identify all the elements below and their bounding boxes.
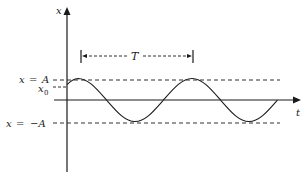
initial-position-sub: 0: [44, 89, 48, 97]
amplitude-positive-eq: =: [29, 74, 37, 85]
amplitude-positive-line: x = A: [19, 74, 280, 85]
amplitude-negative-eq: =: [16, 118, 24, 129]
amplitude-positive-var: x: [19, 74, 25, 85]
shm-diagram: x t x = A x 0 x = −A T: [0, 0, 308, 178]
t-axis-arrow-icon: [293, 97, 301, 104]
period-marker: T: [81, 50, 193, 63]
t-axis-label: t: [296, 107, 301, 118]
x-axis-arrow-icon: [64, 7, 71, 15]
x-axis-label: x: [56, 5, 62, 16]
initial-position-line: x 0: [38, 83, 67, 97]
period-left-arrow-icon: [82, 54, 87, 58]
period-right-arrow-icon: [187, 54, 192, 58]
amplitude-negative-val: −A: [30, 118, 46, 129]
amplitude-negative-var: x: [6, 118, 12, 129]
x-axis: x: [56, 5, 71, 172]
period-label: T: [131, 50, 140, 63]
